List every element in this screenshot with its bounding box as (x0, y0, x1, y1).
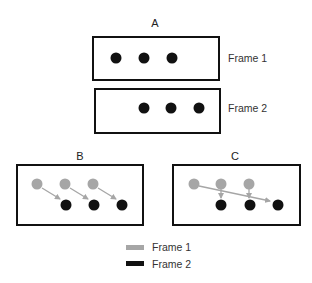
motion-arrow (70, 188, 88, 199)
diagram-canvas: A Frame 1 Frame 2 B C (0, 0, 312, 283)
frame1-dot (60, 179, 71, 190)
legend-label-frame1: Frame 1 (152, 241, 191, 253)
panel-c: C (173, 150, 300, 225)
panel-b: B (17, 150, 143, 225)
frame2-dot (89, 200, 100, 211)
frame2-dot (117, 200, 128, 211)
panel-a: A Frame 1 Frame 2 (93, 17, 267, 133)
panel-c-label: C (231, 150, 239, 162)
panel-b-label: B (76, 150, 83, 162)
frame1-dot (244, 179, 255, 190)
legend-swatch-frame2 (126, 261, 144, 266)
legend-label-frame2: Frame 2 (152, 258, 191, 270)
frame1-dot (189, 179, 200, 190)
frame2-dot (139, 103, 150, 114)
frame2-dot (166, 103, 177, 114)
panel-c-box (173, 165, 300, 225)
frame2-dot (273, 200, 284, 211)
frame2-dot (194, 103, 205, 114)
frame2-dot (216, 200, 227, 211)
frame2-dot (245, 200, 256, 211)
frame1-dot (167, 53, 178, 64)
legend: Frame 1 Frame 2 (126, 241, 191, 270)
panel-b-box (17, 165, 143, 225)
motion-arrow (199, 186, 270, 201)
frame1-dot (32, 179, 43, 190)
motion-arrow (98, 188, 116, 199)
frame1-dot (139, 53, 150, 64)
motion-arrow (42, 188, 60, 199)
frame1-dot (111, 53, 122, 64)
frame1-dot (88, 179, 99, 190)
legend-swatch-frame1 (126, 245, 144, 250)
frame1-dot (216, 179, 227, 190)
frame2-dot (61, 200, 72, 211)
frame2-label: Frame 2 (228, 102, 267, 114)
panel-a-label: A (151, 17, 159, 29)
frame1-label: Frame 1 (228, 52, 267, 64)
